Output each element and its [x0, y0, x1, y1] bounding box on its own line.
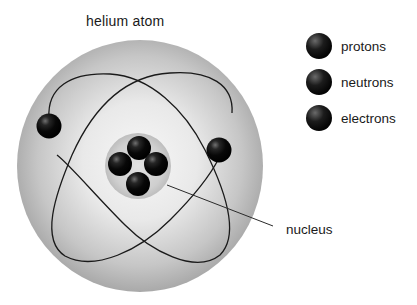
electrons-ball-icon — [306, 105, 332, 131]
electron-right — [207, 138, 232, 163]
legend-label: neutrons — [341, 75, 394, 90]
nucleon-left — [108, 152, 132, 176]
electron-left — [37, 114, 62, 139]
diagram-title: helium atom — [86, 13, 164, 29]
nucleus-label: nucleus — [286, 222, 333, 237]
neutrons-ball-icon — [306, 69, 332, 95]
legend: protons neutrons electrons — [306, 28, 396, 136]
nucleon-right — [144, 152, 168, 176]
legend-item-electrons: electrons — [306, 100, 396, 136]
legend-label: electrons — [341, 111, 396, 126]
nucleon-bottom — [126, 172, 150, 196]
legend-item-neutrons: neutrons — [306, 64, 396, 100]
legend-item-protons: protons — [306, 28, 396, 64]
protons-ball-icon — [306, 33, 332, 59]
legend-label: protons — [341, 39, 386, 54]
